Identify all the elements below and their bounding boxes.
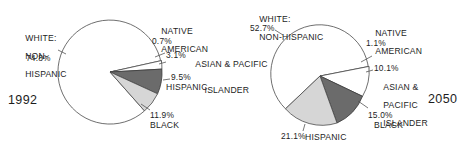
year-label-2050: 2050 [428, 93, 457, 106]
white-line3-1992: HISPANIC [25, 69, 67, 79]
pie-chart-figure: WHITE: NON- HISPANIC 74.8% NATIVE AMERIC… [0, 0, 471, 147]
value-hispanic-1992: 9.5% [171, 73, 191, 82]
value-black-2050: 15.0% [368, 111, 393, 120]
value-white-non-hispanic-1992: 74.8% [26, 54, 51, 63]
label-hispanic-2050: HISPANIC [305, 133, 347, 142]
white-line2-2050: NON-HISPANIC [259, 32, 323, 42]
pie-1992 [58, 20, 162, 124]
value-native-american-1992: 0.7% [152, 37, 172, 46]
native-line1-1992: NATIVE [161, 26, 193, 36]
asian-line1-1992: ASIAN & PACIFIC [195, 59, 268, 69]
year-label-1992: 1992 [8, 94, 37, 107]
asian-line2-2050: PACIFIC [383, 100, 418, 110]
label-black-2050: BLACK [374, 121, 403, 130]
leader-black-2050 [358, 101, 368, 108]
value-white-non-hispanic-2050: 52.7% [250, 24, 275, 33]
white-line1-1992: WHITE: [25, 33, 56, 43]
leader-hispanic-1992 [163, 79, 170, 80]
asian-line1-2050: ASIAN & [383, 82, 418, 92]
value-asian-pacific-1992: 3.1% [166, 51, 186, 60]
value-black-1992: 11.9% [150, 111, 174, 120]
leader-hispanic-2050 [303, 124, 305, 131]
value-hispanic-2050: 21.1% [281, 132, 306, 141]
value-native-american-2050: 1.1% [366, 39, 386, 48]
value-asian-pacific-2050: 10.1% [374, 64, 399, 73]
native-line1-2050: NATIVE [375, 28, 407, 38]
label-black-1992: BLACK [150, 121, 179, 130]
label-hispanic-1992: HISPANIC [166, 83, 208, 92]
